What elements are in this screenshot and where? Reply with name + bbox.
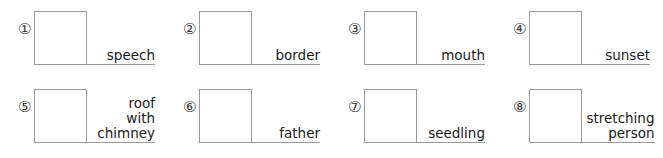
item-label-line: border — [275, 48, 320, 63]
worksheet-item-inner: ②border — [183, 6, 320, 68]
item-answer-cell: border — [199, 6, 320, 65]
worksheet-row: ①speech②border③mouth④sunset — [0, 4, 663, 78]
worksheet-item-inner: ③mouth — [348, 6, 485, 68]
worksheet-item-inner: ①speech — [18, 6, 155, 68]
item-label-line: stretching — [586, 111, 654, 126]
item-label: speech — [87, 6, 155, 64]
item-label-line: speech — [107, 48, 155, 63]
drawing-box[interactable] — [199, 89, 252, 142]
item-answer-cell: speech — [34, 6, 155, 65]
item-label-line: father — [279, 126, 320, 141]
item-label-line: with — [126, 111, 155, 126]
item-number: ④ — [513, 6, 529, 37]
worksheet-item: ②border — [165, 4, 330, 78]
item-answer-cell: mouth — [364, 6, 485, 65]
item-answer-cell: father — [199, 84, 320, 143]
worksheet-item: ③mouth — [330, 4, 495, 78]
drawing-box[interactable] — [34, 11, 87, 64]
item-number: ① — [18, 6, 34, 37]
item-number: ⑦ — [348, 84, 364, 115]
item-answer-cell: seedling — [364, 84, 485, 143]
worksheet-item-inner: ⑧stretchingperson — [513, 84, 650, 146]
item-number: ⑧ — [513, 84, 529, 115]
item-label: roofwithchimney — [87, 84, 155, 142]
drawing-box[interactable] — [529, 89, 582, 142]
item-label-line: roof — [128, 96, 155, 111]
item-label-line: sunset — [605, 48, 650, 63]
item-number: ⑤ — [18, 84, 34, 115]
item-answer-cell: sunset — [529, 6, 650, 65]
worksheet-row: ⑤roofwithchimney⑥father⑦seedling⑧stretch… — [0, 82, 663, 156]
item-label: mouth — [417, 6, 485, 64]
item-label: father — [252, 84, 320, 142]
drawing-box[interactable] — [364, 89, 417, 142]
worksheet-item-inner: ⑤roofwithchimney — [18, 84, 155, 146]
item-answer-cell: roofwithchimney — [34, 84, 155, 143]
worksheet: ①speech②border③mouth④sunset ⑤roofwithchi… — [0, 0, 663, 158]
item-number: ⑥ — [183, 84, 199, 115]
item-label-line: mouth — [441, 48, 485, 63]
item-answer-cell: stretchingperson — [529, 84, 654, 143]
worksheet-item: ④sunset — [495, 4, 660, 78]
item-number: ③ — [348, 6, 364, 37]
drawing-box[interactable] — [199, 11, 252, 64]
worksheet-item: ⑥father — [165, 82, 330, 156]
item-number: ② — [183, 6, 199, 37]
item-label: stretchingperson — [582, 84, 654, 142]
drawing-box[interactable] — [34, 89, 87, 142]
item-label-line: person — [608, 126, 654, 141]
item-label: sunset — [582, 6, 650, 64]
worksheet-item-inner: ④sunset — [513, 6, 650, 68]
drawing-box[interactable] — [529, 11, 582, 64]
worksheet-item: ①speech — [0, 4, 165, 78]
worksheet-item: ⑦seedling — [330, 82, 495, 156]
item-label: border — [252, 6, 320, 64]
worksheet-item: ⑧stretchingperson — [495, 82, 660, 156]
drawing-box[interactable] — [364, 11, 417, 64]
worksheet-item-inner: ⑥father — [183, 84, 320, 146]
worksheet-item-inner: ⑦seedling — [348, 84, 485, 146]
item-label-line: chimney — [97, 126, 155, 141]
worksheet-item: ⑤roofwithchimney — [0, 82, 165, 156]
item-label-line: seedling — [428, 126, 485, 141]
item-label: seedling — [417, 84, 485, 142]
